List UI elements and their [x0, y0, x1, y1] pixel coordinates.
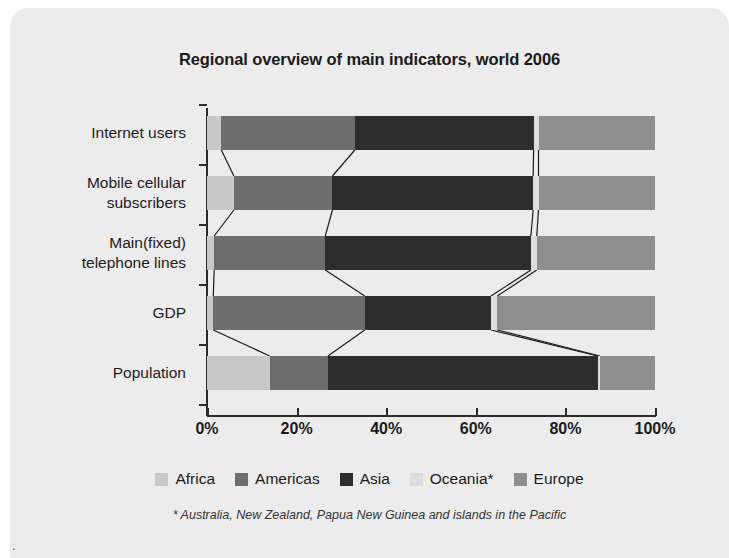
legend-label: Europe: [534, 470, 584, 488]
connector-line: [325, 270, 364, 296]
bar-segment: [539, 116, 655, 150]
y-axis-category-label: GDP: [10, 303, 186, 323]
legend-swatch-icon: [155, 473, 168, 486]
connector-line: [497, 330, 600, 356]
connector-line: [221, 150, 234, 176]
y-axis-category-label: Main(fixed) telephone lines: [10, 233, 186, 273]
bar-segment: [207, 176, 234, 210]
x-axis-tick-label: 100%: [635, 420, 676, 438]
connector-line: [213, 330, 269, 356]
connector-line: [491, 270, 531, 296]
legend-label: Asia: [360, 470, 390, 488]
legend-item: Oceania*: [410, 470, 494, 488]
legend-swatch-icon: [235, 473, 248, 486]
corner-mark: .: [12, 538, 16, 553]
chart-card: Regional overview of main indicators, wo…: [10, 8, 729, 558]
y-axis-tick: [199, 404, 207, 406]
x-axis-tick: [386, 408, 388, 416]
bar-row: [207, 116, 655, 150]
bar-segment: [537, 236, 655, 270]
legend-swatch-icon: [514, 473, 527, 486]
x-axis-tick: [476, 408, 478, 416]
x-axis-tick: [297, 408, 299, 416]
y-axis-tick: [199, 344, 207, 346]
legend-item: Africa: [155, 470, 215, 488]
bar-segment: [214, 236, 325, 270]
bar-segment: [328, 356, 598, 390]
bar-segment: [207, 236, 214, 270]
bar-segment: [213, 296, 364, 330]
legend-item: Asia: [340, 470, 390, 488]
x-axis-tick-label: 40%: [370, 420, 402, 438]
bar-row: [207, 296, 655, 330]
connector-line: [325, 210, 332, 236]
connector-line: [531, 210, 533, 236]
connector-line: [328, 330, 365, 356]
bar-segment: [497, 296, 655, 330]
y-axis-category-label: Population: [10, 363, 186, 383]
bar-segment: [270, 356, 328, 390]
connector-line: [537, 210, 539, 236]
x-axis-tick-label: 60%: [460, 420, 492, 438]
legend-label: Americas: [255, 470, 320, 488]
bar-segment: [365, 296, 491, 330]
x-axis-line: [207, 415, 656, 417]
y-axis-category-label: Internet users: [10, 123, 186, 143]
bar-row: [207, 356, 655, 390]
y-axis-tick: [199, 164, 207, 166]
connector-line: [213, 270, 214, 296]
y-axis-tick: [199, 104, 207, 106]
x-axis-tick-label: 20%: [281, 420, 313, 438]
plot-area: [207, 108, 655, 408]
connector-line: [214, 210, 234, 236]
legend-swatch-icon: [410, 473, 423, 486]
connector-line: [497, 270, 536, 296]
connector-line: [491, 330, 598, 356]
chart-title: Regional overview of main indicators, wo…: [10, 50, 729, 69]
bar-segment: [539, 176, 655, 210]
bar-row: [207, 236, 655, 270]
x-axis-tick-label: 80%: [549, 420, 581, 438]
legend-label: Oceania*: [430, 470, 494, 488]
connector-line: [332, 150, 354, 176]
chart-footnote: * Australia, New Zealand, Papua New Guin…: [10, 508, 729, 522]
legend-item: Europe: [514, 470, 584, 488]
bar-segment: [332, 176, 533, 210]
bar-segment: [221, 116, 355, 150]
bar-segment: [600, 356, 655, 390]
x-axis-tick: [655, 408, 657, 416]
legend-swatch-icon: [340, 473, 353, 486]
x-axis-tick-label: 0%: [195, 420, 218, 438]
legend-item: Americas: [235, 470, 320, 488]
y-axis-tick: [199, 284, 207, 286]
bar-segment: [207, 356, 270, 390]
x-axis-tick: [565, 408, 567, 416]
bar-segment: [325, 236, 531, 270]
legend-label: Africa: [175, 470, 215, 488]
chart-legend: AfricaAmericasAsiaOceania*Europe: [10, 470, 729, 488]
y-axis-tick: [199, 224, 207, 226]
y-axis-category-label: Mobile cellular subscribers: [10, 173, 186, 213]
bar-segment: [234, 176, 333, 210]
bar-segment: [207, 116, 221, 150]
x-axis-tick: [207, 408, 209, 416]
bar-segment: [355, 116, 534, 150]
bar-row: [207, 176, 655, 210]
